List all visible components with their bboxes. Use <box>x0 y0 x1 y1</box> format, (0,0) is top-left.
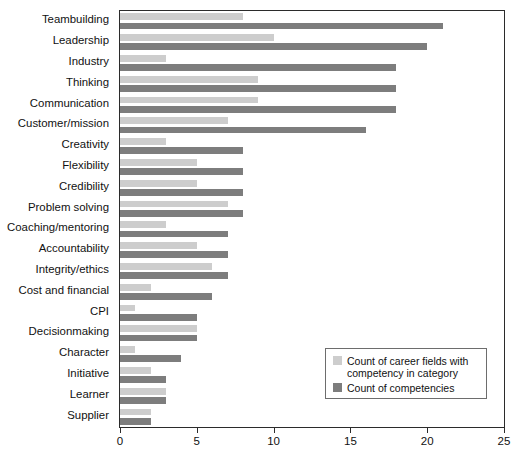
bar-competencies <box>120 376 166 383</box>
bar-group <box>120 177 504 198</box>
x-axis-tick <box>274 428 275 433</box>
bar-career-fields <box>120 201 228 208</box>
x-axis-tick <box>197 428 198 433</box>
bar-career-fields <box>120 325 197 332</box>
bar-group <box>120 323 504 344</box>
x-axis-tick <box>120 428 121 433</box>
bar-career-fields <box>120 13 243 20</box>
x-axis-tick-label: 5 <box>194 435 200 447</box>
bar-group <box>120 53 504 74</box>
bar-competencies <box>120 231 228 238</box>
bar-career-fields <box>120 284 151 291</box>
legend-label: Count of career fields with competency i… <box>347 355 479 379</box>
bar-group <box>120 73 504 94</box>
bar-group <box>120 219 504 240</box>
legend-entry: Count of career fields with competency i… <box>333 355 479 379</box>
y-axis-label-cost-and-financial: Cost and financial <box>0 285 114 296</box>
bar-competencies <box>120 335 197 342</box>
bar-career-fields <box>120 117 228 124</box>
bar-career-fields <box>120 221 166 228</box>
bar-group <box>120 261 504 282</box>
bar-career-fields <box>120 263 212 270</box>
y-axis-label-flexibility: Flexibility <box>0 160 114 171</box>
y-axis-label-character: Character <box>0 347 114 358</box>
y-axis-label-accountability: Accountability <box>0 243 114 254</box>
bar-career-fields <box>120 76 258 83</box>
legend-swatch-dark <box>333 383 342 392</box>
y-axis-label-teambuilding: Teambuilding <box>0 14 114 25</box>
bar-competencies <box>120 251 228 258</box>
bar-competencies <box>120 127 366 134</box>
y-axis-label-supplier: Supplier <box>0 410 114 421</box>
bar-competencies <box>120 23 443 30</box>
bar-career-fields <box>120 180 197 187</box>
bar-group <box>120 94 504 115</box>
x-axis-tick <box>427 428 428 433</box>
bar-competencies <box>120 168 243 175</box>
y-axis-label-communication: Communication <box>0 98 114 109</box>
bar-career-fields <box>120 305 135 312</box>
bar-competencies <box>120 210 243 217</box>
bar-group <box>120 302 504 323</box>
legend-label: Count of competencies <box>347 382 454 394</box>
bar-group <box>120 11 504 32</box>
bar-career-fields <box>120 97 258 104</box>
chart-legend: Count of career fields with competency i… <box>325 348 487 399</box>
y-axis-label-decisionmaking: Decisionmaking <box>0 326 114 337</box>
y-axis-label-cpi: CPI <box>0 306 114 317</box>
y-axis-label-coaching-mentoring: Coaching/mentoring <box>0 222 114 233</box>
bar-group <box>120 32 504 53</box>
y-axis-label-thinking: Thinking <box>0 77 114 88</box>
bar-group <box>120 136 504 157</box>
x-axis-tick <box>350 428 351 433</box>
bar-competencies <box>120 189 243 196</box>
x-axis-tick-label: 15 <box>344 435 357 447</box>
bar-career-fields <box>120 34 274 41</box>
bar-competencies <box>120 397 166 404</box>
bar-competencies <box>120 272 228 279</box>
legend-entry: Count of competencies <box>333 382 479 394</box>
legend-swatch-light <box>333 356 342 365</box>
bar-career-fields <box>120 346 135 353</box>
bar-competencies <box>120 85 396 92</box>
y-axis-label-credibility: Credibility <box>0 181 114 192</box>
bar-group <box>120 281 504 302</box>
x-axis-tick <box>504 428 505 433</box>
y-axis-category-labels: TeambuildingLeadershipIndustryThinkingCo… <box>0 10 114 428</box>
bar-career-fields <box>120 55 166 62</box>
bar-chart: TeambuildingLeadershipIndustryThinkingCo… <box>0 0 525 465</box>
x-axis-tick-label: 0 <box>117 435 123 447</box>
bar-group <box>120 406 504 427</box>
y-axis-label-initiative: Initiative <box>0 368 114 379</box>
x-axis: 0510152025 <box>119 428 505 460</box>
y-axis-label-creativity: Creativity <box>0 139 114 150</box>
y-axis-label-integrity-ethics: Integrity/ethics <box>0 264 114 275</box>
bar-competencies <box>120 43 427 50</box>
y-axis-label-customer-mission: Customer/mission <box>0 118 114 129</box>
bar-group <box>120 198 504 219</box>
y-axis-label-problem-solving: Problem solving <box>0 202 114 213</box>
bar-competencies <box>120 293 212 300</box>
bar-career-fields <box>120 242 197 249</box>
x-axis-tick-label: 25 <box>498 435 511 447</box>
bar-group <box>120 115 504 136</box>
x-axis-tick-label: 20 <box>421 435 434 447</box>
bar-career-fields <box>120 138 166 145</box>
x-axis-tick-label: 10 <box>267 435 280 447</box>
bar-group <box>120 157 504 178</box>
bar-competencies <box>120 418 151 425</box>
bar-competencies <box>120 147 243 154</box>
bar-competencies <box>120 106 396 113</box>
y-axis-label-learner: Learner <box>0 389 114 400</box>
bar-career-fields <box>120 159 197 166</box>
bar-career-fields <box>120 409 151 416</box>
bar-competencies <box>120 64 396 71</box>
bar-competencies <box>120 314 197 321</box>
bar-group <box>120 240 504 261</box>
y-axis-label-industry: Industry <box>0 56 114 67</box>
y-axis-label-leadership: Leadership <box>0 35 114 46</box>
bar-competencies <box>120 355 181 362</box>
bar-career-fields <box>120 367 151 374</box>
bar-career-fields <box>120 388 166 395</box>
